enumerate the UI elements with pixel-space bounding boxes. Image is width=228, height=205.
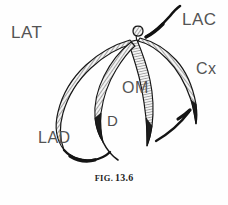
figure-container: LAT LAC Cx OM D LAD FIG.13.6 <box>0 0 228 205</box>
vessel-lad-distal-hook <box>64 150 110 161</box>
label-cx: Cx <box>196 61 217 77</box>
caption-prefix: FIG. <box>95 173 113 183</box>
vessel-lac-contour <box>146 6 180 37</box>
label-lad: LAD <box>38 130 71 146</box>
label-lac: LAC <box>182 11 217 28</box>
figure-caption: FIG.13.6 <box>0 172 228 183</box>
label-om: OM <box>122 80 149 96</box>
caption-number: 13.6 <box>115 172 133 183</box>
vessel-cx-distal-hook <box>156 110 190 141</box>
label-lat: LAT <box>11 24 42 41</box>
label-d: D <box>107 113 118 128</box>
